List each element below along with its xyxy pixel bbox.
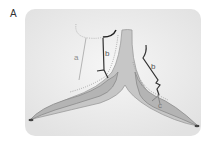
label-b-right: b <box>151 62 156 71</box>
diagram: a b b c <box>0 0 216 146</box>
right-tip <box>195 125 200 127</box>
label-b-left: b <box>105 49 110 58</box>
left-tip <box>29 119 34 121</box>
label-c: c <box>158 101 162 110</box>
label-a: a <box>74 53 79 62</box>
